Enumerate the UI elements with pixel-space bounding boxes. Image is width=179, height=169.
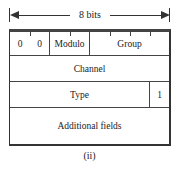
packet-frame: 0 0 Modulo Group Channel Type 1 Addition… xyxy=(9,29,171,146)
additional-row: Additional fields xyxy=(10,108,169,144)
header-row: 0 0 Modulo Group xyxy=(10,32,169,56)
bit-field-0a: 0 xyxy=(10,32,30,55)
additional-fields: Additional fields xyxy=(10,108,169,144)
arrow-left-icon xyxy=(10,11,19,19)
group-field: Group xyxy=(90,32,169,55)
channel-row: Channel xyxy=(10,56,169,82)
modulo-field: Modulo xyxy=(50,32,90,55)
channel-field: Channel xyxy=(10,56,169,81)
arrow-right-icon xyxy=(161,11,170,19)
width-label: 8 bits xyxy=(70,8,110,22)
type-row: Type 1 xyxy=(10,82,169,108)
type-flag-bit: 1 xyxy=(150,82,169,107)
figure-caption: (ii) xyxy=(0,150,179,161)
bit-field-0b: 0 xyxy=(30,32,50,55)
type-field: Type xyxy=(10,82,150,107)
